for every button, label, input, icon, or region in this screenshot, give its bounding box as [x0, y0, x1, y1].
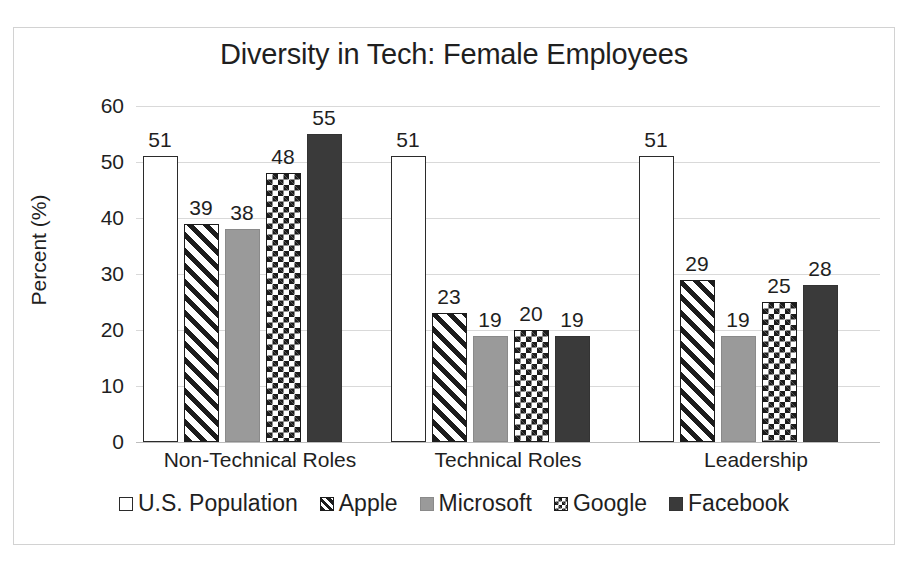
bar-facebook[interactable]: 19 — [555, 106, 590, 442]
bar-value-label: 19 — [726, 309, 749, 330]
legend-label: Microsoft — [439, 490, 532, 517]
bar-value-label: 28 — [808, 258, 831, 279]
bar-rect[interactable] — [803, 285, 838, 442]
bar-value-label: 51 — [396, 129, 419, 150]
legend-swatch-icon — [119, 497, 133, 511]
y-axis-tick-label: 0 — [112, 430, 124, 454]
bar-u-s-population[interactable]: 51 — [391, 106, 426, 442]
bar-google[interactable]: 48 — [266, 106, 301, 442]
legend-item[interactable]: Facebook — [669, 490, 789, 517]
bar-rect[interactable] — [266, 173, 301, 442]
bar-value-label: 55 — [312, 107, 335, 128]
x-axis-category-label: Non-Technical Roles — [136, 448, 384, 472]
plot-area: 0102030405060513938485551231920195129192… — [136, 106, 880, 442]
bar-value-label: 38 — [230, 202, 253, 223]
bar-apple[interactable]: 39 — [184, 106, 219, 442]
chart-legend: U.S. PopulationAppleMicrosoftGoogleFaceb… — [14, 490, 894, 517]
bar-u-s-population[interactable]: 51 — [639, 106, 674, 442]
legend-swatch-icon — [554, 497, 568, 511]
legend-label: U.S. Population — [138, 490, 298, 517]
y-axis-tick-label: 20 — [101, 318, 124, 342]
bar-microsoft[interactable]: 38 — [225, 106, 260, 442]
chart-container: Diversity in Tech: Female Employees Perc… — [13, 27, 895, 545]
bar-rect[interactable] — [432, 313, 467, 442]
bar-google[interactable]: 25 — [762, 106, 797, 442]
gridline — [136, 442, 880, 443]
bar-microsoft[interactable]: 19 — [473, 106, 508, 442]
legend-label: Facebook — [688, 490, 789, 517]
bar-rect[interactable] — [680, 280, 715, 442]
y-axis-tick-label: 40 — [101, 206, 124, 230]
bar-apple[interactable]: 23 — [432, 106, 467, 442]
x-axis-category-label: Technical Roles — [384, 448, 632, 472]
legend-swatch-icon — [420, 497, 434, 511]
bar-rect[interactable] — [762, 302, 797, 442]
legend-label: Apple — [339, 490, 398, 517]
bar-facebook[interactable]: 28 — [803, 106, 838, 442]
legend-swatch-icon — [320, 497, 334, 511]
bar-group: 5123192019 — [384, 106, 632, 442]
bar-value-label: 51 — [148, 129, 171, 150]
bar-apple[interactable]: 29 — [680, 106, 715, 442]
bar-rect[interactable] — [143, 156, 178, 442]
legend-item[interactable]: Microsoft — [420, 490, 532, 517]
bar-rect[interactable] — [639, 156, 674, 442]
bar-group: 5129192528 — [632, 106, 880, 442]
legend-item[interactable]: U.S. Population — [119, 490, 298, 517]
bar-rect[interactable] — [225, 229, 260, 442]
bar-facebook[interactable]: 55 — [307, 106, 342, 442]
bar-group: 5139384855 — [136, 106, 384, 442]
bar-value-label: 19 — [560, 309, 583, 330]
bar-google[interactable]: 20 — [514, 106, 549, 442]
bar-u-s-population[interactable]: 51 — [143, 106, 178, 442]
x-axis-category-label: Leadership — [632, 448, 880, 472]
y-axis-tick-label: 10 — [101, 374, 124, 398]
bar-rect[interactable] — [514, 330, 549, 442]
bar-rect[interactable] — [473, 336, 508, 442]
bar-value-label: 29 — [685, 253, 708, 274]
bar-value-label: 48 — [271, 146, 294, 167]
bar-value-label: 19 — [478, 309, 501, 330]
bar-microsoft[interactable]: 19 — [721, 106, 756, 442]
y-axis-tick-label: 50 — [101, 150, 124, 174]
bar-value-label: 51 — [644, 129, 667, 150]
y-axis-tick-label: 30 — [101, 262, 124, 286]
y-axis-tick-label: 60 — [101, 94, 124, 118]
legend-item[interactable]: Apple — [320, 490, 398, 517]
bar-value-label: 23 — [437, 286, 460, 307]
legend-item[interactable]: Google — [554, 490, 647, 517]
bar-rect[interactable] — [184, 224, 219, 442]
legend-swatch-icon — [669, 497, 683, 511]
legend-label: Google — [573, 490, 647, 517]
y-axis-title: Percent (%) — [27, 165, 51, 335]
bar-value-label: 20 — [519, 303, 542, 324]
chart-title: Diversity in Tech: Female Employees — [14, 38, 894, 71]
bar-value-label: 25 — [767, 275, 790, 296]
bar-value-label: 39 — [189, 197, 212, 218]
bar-rect[interactable] — [391, 156, 426, 442]
bar-rect[interactable] — [721, 336, 756, 442]
bar-rect[interactable] — [555, 336, 590, 442]
bar-rect[interactable] — [307, 134, 342, 442]
